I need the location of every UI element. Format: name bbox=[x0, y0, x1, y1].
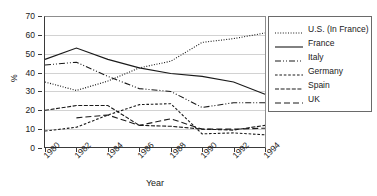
legend-label: Germany bbox=[308, 67, 343, 76]
x-axis-title: Year bbox=[44, 178, 266, 188]
y-tick-mark bbox=[38, 110, 42, 111]
y-tick-mark bbox=[38, 73, 42, 74]
series-lines bbox=[44, 16, 266, 148]
y-axis-title: % bbox=[9, 74, 19, 82]
y-tick-mark bbox=[38, 91, 42, 92]
legend-label: UK bbox=[308, 95, 320, 104]
legend-line-swatch bbox=[274, 38, 304, 48]
y-tick-label: 70 bbox=[26, 12, 35, 21]
legend-item[interactable]: Germany bbox=[274, 64, 367, 78]
y-tick-mark bbox=[38, 54, 42, 55]
y-axis: % 010203040506070 bbox=[0, 10, 42, 156]
chart-figure: % 010203040506070 1980198219841986198819… bbox=[0, 0, 377, 196]
chart-legend: U.S. (In France)FranceItalyGermanySpainU… bbox=[268, 16, 372, 112]
legend-line-swatch bbox=[274, 52, 304, 62]
legend-line-swatch bbox=[274, 94, 304, 104]
y-tick-mark bbox=[38, 129, 42, 130]
legend-rows: U.S. (In France)FranceItalyGermanySpainU… bbox=[274, 22, 367, 106]
y-tick-label: 60 bbox=[26, 31, 35, 40]
y-tick-label: 30 bbox=[26, 87, 35, 96]
legend-line-swatch bbox=[274, 80, 304, 90]
legend-label: Spain bbox=[308, 81, 330, 90]
legend-line-swatch bbox=[274, 24, 304, 34]
plot-area bbox=[44, 16, 266, 148]
y-tick-mark bbox=[38, 16, 42, 17]
y-tick-mark bbox=[38, 35, 42, 36]
y-tick-label: 40 bbox=[26, 69, 35, 78]
legend-label: U.S. (In France) bbox=[308, 25, 368, 34]
legend-label: Italy bbox=[308, 53, 324, 62]
legend-item[interactable]: Spain bbox=[274, 78, 367, 92]
y-tick-mark bbox=[38, 148, 42, 149]
legend-line-swatch bbox=[274, 66, 304, 76]
y-tick-label: 0 bbox=[30, 144, 35, 153]
legend-item[interactable]: UK bbox=[274, 92, 367, 106]
y-tick-label: 20 bbox=[26, 106, 35, 115]
legend-item[interactable]: Italy bbox=[274, 50, 367, 64]
legend-item[interactable]: U.S. (In France) bbox=[274, 22, 367, 36]
series-line bbox=[76, 115, 265, 129]
y-tick-label: 10 bbox=[26, 125, 35, 134]
legend-label: France bbox=[308, 39, 334, 48]
legend-item[interactable]: France bbox=[274, 36, 367, 50]
x-axis: 19801982198419861988199019921994 bbox=[44, 148, 266, 182]
y-tick-label: 50 bbox=[26, 50, 35, 59]
series-line bbox=[45, 48, 265, 94]
series-line bbox=[45, 62, 265, 107]
